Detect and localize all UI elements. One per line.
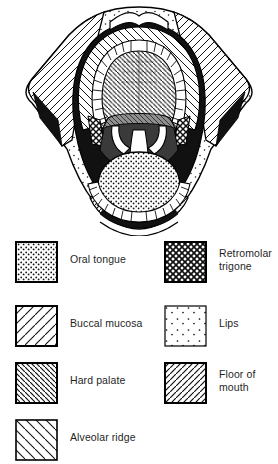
swatch-dense-hatch-slash xyxy=(164,362,207,404)
legend-label-buccal-mucosa: Buccal mucosa xyxy=(58,305,143,330)
legend-label-hard-palate: Hard palate xyxy=(58,362,125,387)
swatch-dense-hatch-backslash xyxy=(15,362,58,404)
legend-label-floor-of-mouth: Floor of mouth xyxy=(207,362,255,393)
legend-item-alveolar-ridge: Alveolar ridge xyxy=(15,419,136,461)
swatch-sparse-dots xyxy=(164,305,207,347)
legend-label-retromolar-trigone: Retromolar trigone xyxy=(207,241,272,272)
legend-item-oral-tongue: Oral tongue xyxy=(15,241,126,283)
legend: Oral tongue Retromolar trigone xyxy=(0,234,278,464)
legend-item-retromolar-trigone: Retromolar trigone xyxy=(164,241,272,283)
swatch-hatch-slash xyxy=(15,305,58,347)
oral-cavity-figure: Oral tongue Retromolar trigone xyxy=(0,0,278,464)
swatch-dense-dots xyxy=(15,241,58,283)
oral-cavity-svg xyxy=(0,0,278,236)
swatch-hatch-backslash xyxy=(15,419,58,461)
oral-cavity-illustration xyxy=(0,0,278,236)
swatch-cross-hatch xyxy=(164,241,207,283)
legend-item-lips: Lips xyxy=(164,305,239,347)
legend-item-buccal-mucosa: Buccal mucosa xyxy=(15,305,143,347)
legend-label-lips: Lips xyxy=(207,305,239,330)
legend-label-oral-tongue: Oral tongue xyxy=(58,241,126,266)
legend-label-alveolar-ridge: Alveolar ridge xyxy=(58,419,136,444)
legend-item-hard-palate: Hard palate xyxy=(15,362,125,404)
legend-item-floor-of-mouth: Floor of mouth xyxy=(164,362,255,404)
